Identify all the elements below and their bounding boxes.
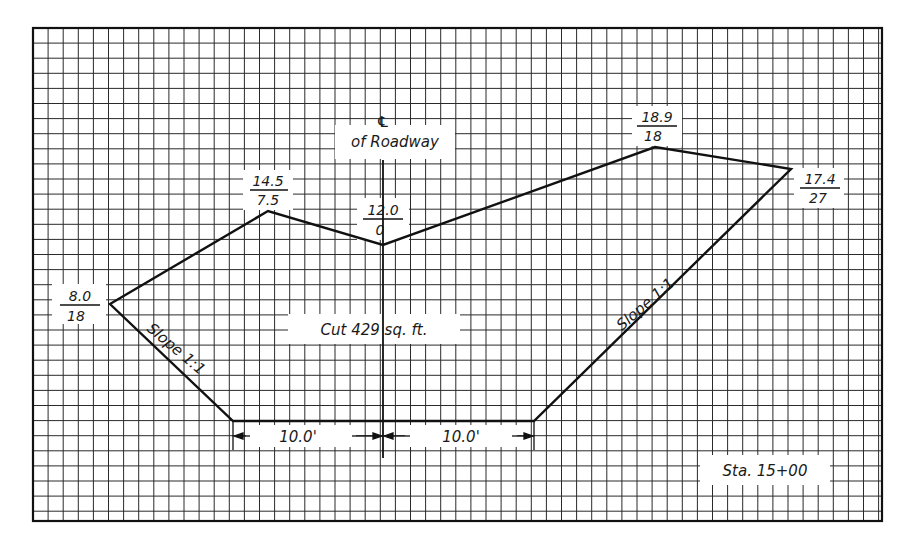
arrowhead-icon (384, 433, 393, 439)
svg-text:14.5: 14.5 (252, 173, 283, 189)
svg-text:0: 0 (376, 222, 385, 238)
svg-text:18: 18 (67, 308, 85, 324)
cross-section-outline (110, 147, 791, 421)
svg-text:8.0: 8.0 (69, 288, 91, 304)
arrowhead-icon (234, 433, 243, 439)
station-label: Sta. 15+00 (723, 462, 808, 480)
right-slope-label: Slope 1:1 (613, 274, 678, 334)
area-label: Cut 429 sq. ft. (321, 321, 428, 339)
svg-text:27: 27 (809, 190, 827, 206)
dimension-right: 10.0' (442, 428, 480, 446)
cross-section-sheet: ℄ of Roadway 8.0 18 14.5 7.5 12.0 0 18.9… (0, 0, 914, 548)
svg-text:17.4: 17.4 (804, 171, 835, 187)
svg-text:18: 18 (644, 128, 662, 144)
centerline-label: of Roadway (351, 133, 440, 151)
svg-text:18.9: 18.9 (641, 109, 672, 125)
svg-text:12.0: 12.0 (367, 202, 398, 218)
svg-text:7.5: 7.5 (257, 192, 279, 208)
dimension-left: 10.0' (279, 428, 317, 446)
centerline-symbol: ℄ (377, 113, 388, 131)
